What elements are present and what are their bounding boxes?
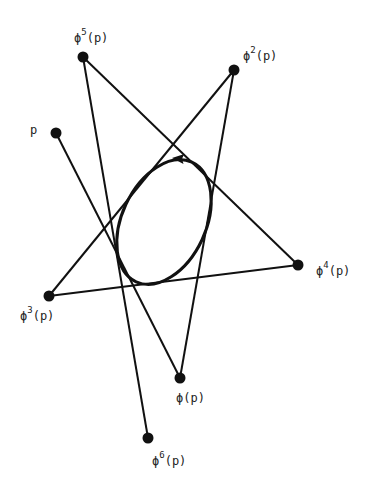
- label-phi4: ϕ4(p): [316, 260, 350, 278]
- tangent-segments: [49, 57, 298, 438]
- label-p: p: [30, 123, 37, 137]
- point-phi2: [229, 65, 240, 76]
- point-labels: pϕ(p)ϕ2(p)ϕ3(p)ϕ4(p)ϕ5(p)ϕ6(p): [20, 27, 350, 468]
- segment-phi2-to-phi3: [49, 70, 234, 296]
- label-phi6: ϕ6(p): [152, 450, 186, 468]
- orbit-points: [44, 52, 304, 444]
- point-phi3: [44, 291, 55, 302]
- label-phi1: ϕ(p): [176, 391, 205, 405]
- point-phi4: [293, 260, 304, 271]
- segment-phi3-to-phi4: [49, 265, 298, 296]
- point-p: [51, 128, 62, 139]
- label-phi5: ϕ5(p): [74, 27, 108, 45]
- label-phi2: ϕ2(p): [243, 45, 277, 63]
- point-phi5: [78, 52, 89, 63]
- label-phi3: ϕ3(p): [20, 305, 54, 323]
- orbit-diagram: pϕ(p)ϕ2(p)ϕ3(p)ϕ4(p)ϕ5(p)ϕ6(p): [0, 0, 371, 494]
- point-phi6: [143, 433, 154, 444]
- point-phi1: [175, 373, 186, 384]
